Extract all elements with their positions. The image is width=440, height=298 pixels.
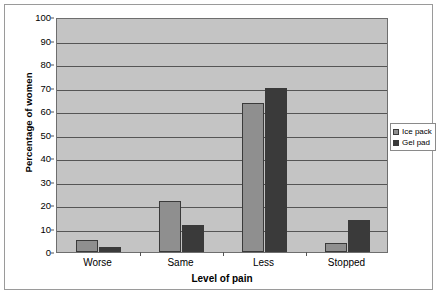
x-tick-mark <box>140 252 141 256</box>
y-axis-tick-labels: 0102030405060708090100 <box>25 18 51 253</box>
legend-item: Ice pack <box>393 126 432 137</box>
y-tick-label: 20 <box>25 201 51 211</box>
legend-swatch-icon <box>393 140 399 146</box>
x-tick-mark <box>223 252 224 256</box>
x-tick-label: Less <box>253 257 274 268</box>
bar <box>182 225 204 252</box>
bar-group <box>140 19 223 252</box>
y-tick-label: 40 <box>25 154 51 164</box>
bar <box>159 201 181 252</box>
y-tick-label: 10 <box>25 225 51 235</box>
y-tick-label: 50 <box>25 131 51 141</box>
x-tick-label: Stopped <box>328 257 365 268</box>
y-tick-mark <box>51 112 54 113</box>
plot-inner <box>57 19 387 252</box>
y-tick-mark <box>51 18 54 19</box>
y-tick-label: 0 <box>25 248 51 258</box>
y-tick-mark <box>51 135 54 136</box>
chart-figure: Percentage of women 01020304050607080901… <box>4 4 433 290</box>
legend-item: Gel pad <box>393 137 432 148</box>
x-tick-mark <box>306 252 307 256</box>
y-tick-label: 30 <box>25 178 51 188</box>
plot-area <box>56 18 388 253</box>
bar <box>265 88 287 253</box>
bar-group <box>57 19 140 252</box>
y-tick-label: 70 <box>25 84 51 94</box>
y-tick-mark <box>51 159 54 160</box>
bar <box>348 220 370 252</box>
legend-label: Gel pad <box>402 139 430 147</box>
bar <box>242 103 264 252</box>
bar-group <box>306 19 389 252</box>
legend-label: Ice pack <box>402 128 432 136</box>
y-tick-mark <box>51 65 54 66</box>
y-tick-label: 100 <box>25 13 51 23</box>
chart-legend: Ice packGel pad <box>390 123 436 151</box>
y-tick-label: 60 <box>25 107 51 117</box>
y-tick-label: 90 <box>25 37 51 47</box>
y-tick-mark <box>51 182 54 183</box>
x-axis-title: Level of pain <box>56 273 388 284</box>
bar <box>325 243 347 252</box>
bar-group <box>223 19 306 252</box>
y-tick-mark <box>51 206 54 207</box>
bar <box>76 240 98 252</box>
y-tick-label: 80 <box>25 60 51 70</box>
y-tick-mark <box>51 41 54 42</box>
y-tick-mark <box>51 229 54 230</box>
bar <box>99 247 121 252</box>
x-axis-tick-labels: WorseSameLessStopped <box>56 257 388 271</box>
y-tick-mark <box>51 253 54 254</box>
y-tick-mark <box>51 88 54 89</box>
legend-swatch-icon <box>393 129 399 135</box>
x-tick-label: Worse <box>83 257 112 268</box>
x-tick-label: Same <box>167 257 193 268</box>
